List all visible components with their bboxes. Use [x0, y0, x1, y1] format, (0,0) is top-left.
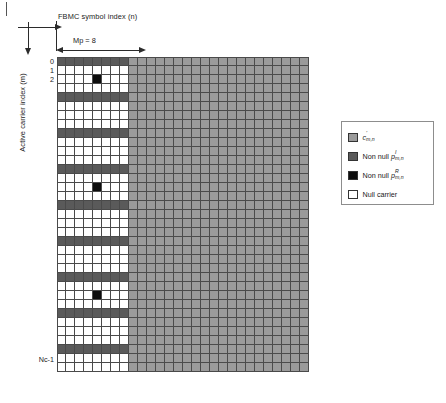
grid-cell-pilot-imag [66, 129, 75, 138]
legend-null-carrier: Null carrier [348, 185, 433, 204]
grid-cell-null [93, 66, 102, 75]
grid-cell-data [201, 111, 210, 120]
grid-cell-data [138, 93, 147, 102]
grid-cell-data [174, 165, 183, 174]
grid-cell-data [183, 201, 192, 210]
grid-cell-data [246, 282, 255, 291]
legend-c-mn-label: cm,n'm,n [363, 133, 375, 142]
grid-cell-data [291, 354, 300, 363]
grid-cell-data [201, 237, 210, 246]
grid-cell-pilot-imag [75, 165, 84, 174]
grid-cell-data [300, 345, 309, 354]
grid-row [57, 219, 309, 228]
grid-row [57, 354, 309, 363]
grid-cell-null [57, 66, 66, 75]
grid-cell-data [210, 138, 219, 147]
grid-cell-data [246, 273, 255, 282]
grid-cell-pilot-imag [66, 237, 75, 246]
grid-cell-null [111, 291, 120, 300]
grid-cell-data [273, 75, 282, 84]
grid-cell-data [138, 246, 147, 255]
grid-cell-pilot-imag [75, 309, 84, 318]
grid-cell-data [138, 228, 147, 237]
grid-cell-data [228, 75, 237, 84]
grid-cell-data [291, 300, 300, 309]
grid-cell-data [291, 174, 300, 183]
grid-cell-data [300, 201, 309, 210]
grid-cell-data [174, 102, 183, 111]
grid-row [57, 57, 309, 66]
grid-cell-data [183, 336, 192, 345]
grid-cell-null [120, 75, 129, 84]
grid-cell-data [201, 354, 210, 363]
grid-cell-data [147, 111, 156, 120]
grid-cell-data [129, 255, 138, 264]
grid-cell-data [228, 66, 237, 75]
grid-cell-data [264, 57, 273, 66]
grid-cell-data [219, 192, 228, 201]
grid-cell-data [147, 237, 156, 246]
grid-cell-data [237, 300, 246, 309]
grid-cell-data [237, 219, 246, 228]
grid-cell-pilot-real [93, 183, 102, 192]
grid-cell-data [282, 345, 291, 354]
grid-cell-data [228, 102, 237, 111]
grid-cell-data [264, 309, 273, 318]
grid-cell-pilot-imag [120, 201, 129, 210]
grid-cell-pilot-imag [84, 57, 93, 66]
grid-cell-data [219, 219, 228, 228]
grid-cell-data [174, 291, 183, 300]
grid-cell-null [66, 219, 75, 228]
grid-cell-null [93, 318, 102, 327]
grid-cell-data [156, 165, 165, 174]
grid-cell-pilot-imag [102, 57, 111, 66]
grid-cell-data [183, 84, 192, 93]
grid-cell-data [300, 183, 309, 192]
grid-cell-null [66, 327, 75, 336]
grid-cell-data [192, 273, 201, 282]
grid-cell-null [120, 156, 129, 165]
grid-cell-data [192, 111, 201, 120]
grid-cell-data [228, 354, 237, 363]
grid-cell-data [129, 174, 138, 183]
legend-box: cm,n'm,nNon null pm,nIm,nNon null pm,nRm… [341, 121, 434, 205]
grid-row [57, 120, 309, 129]
grid-cell-data [246, 300, 255, 309]
grid-cell-null [57, 336, 66, 345]
grid-cell-data [291, 147, 300, 156]
grid-cell-null [66, 156, 75, 165]
grid-cell-data [246, 228, 255, 237]
grid-row [57, 282, 309, 291]
grid-row [57, 147, 309, 156]
grid-cell-data [264, 273, 273, 282]
grid-cell-data [228, 336, 237, 345]
mp-span-arrow-right-icon [139, 47, 146, 53]
grid-cell-data [147, 327, 156, 336]
mp-span-line [60, 50, 140, 51]
grid-cell-null [57, 363, 66, 372]
grid-cell-data [300, 57, 309, 66]
grid-row [57, 237, 309, 246]
grid-cell-data [246, 318, 255, 327]
legend-non-null-pR: Non null pm,nRm,n [348, 166, 433, 185]
grid-cell-pilot-imag [84, 129, 93, 138]
grid-cell-data [201, 156, 210, 165]
grid-cell-pilot-imag [120, 57, 129, 66]
grid-cell-data [273, 84, 282, 93]
grid-cell-data [246, 111, 255, 120]
grid-cell-data [174, 147, 183, 156]
grid-cell-data [228, 327, 237, 336]
grid-cell-pilot-imag [120, 309, 129, 318]
grid-cell-data [210, 273, 219, 282]
grid-cell-data [291, 291, 300, 300]
grid-cell-null [102, 174, 111, 183]
grid-cell-data [174, 237, 183, 246]
grid-cell-null [120, 336, 129, 345]
grid-cell-data [174, 273, 183, 282]
grid-cell-data [201, 66, 210, 75]
grid-cell-null [57, 264, 66, 273]
grid-cell-data [246, 66, 255, 75]
grid-cell-data [210, 291, 219, 300]
grid-cell-data [138, 345, 147, 354]
grid-cell-data [192, 219, 201, 228]
